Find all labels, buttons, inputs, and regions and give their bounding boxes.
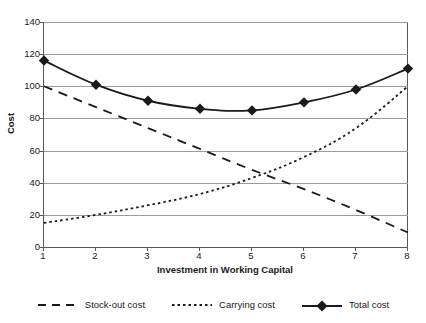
cost-vs-working-capital-chart: Cost 020406080100120140 12345678 Investm… xyxy=(0,0,426,323)
dotted-line-swatch xyxy=(171,300,213,310)
data-point-marker xyxy=(299,97,309,107)
x-axis-tick-label: 1 xyxy=(28,250,58,262)
series-lines xyxy=(44,22,408,247)
x-axis-tick-label: 4 xyxy=(184,250,214,262)
series-line xyxy=(44,86,408,223)
x-axis-tick-label: 5 xyxy=(236,250,266,262)
data-point-marker xyxy=(143,96,153,106)
dashed-line-swatch xyxy=(37,300,79,310)
legend-item-label: Total cost xyxy=(349,300,389,310)
solid-line-diamond-swatch xyxy=(301,300,343,310)
legend-item-label: Stock-out cost xyxy=(85,300,145,310)
legend-item-label: Carrying cost xyxy=(219,300,275,310)
legend-item[interactable]: Total cost xyxy=(301,300,389,310)
data-point-marker xyxy=(91,79,101,89)
x-axis-tick-label: 8 xyxy=(392,250,422,262)
data-point-marker xyxy=(247,105,257,115)
series-line xyxy=(44,86,408,232)
x-axis-tick-label: 3 xyxy=(132,250,162,262)
data-point-marker xyxy=(195,104,205,114)
chart-legend: Stock-out costCarrying costTotal cost xyxy=(0,295,426,315)
x-axis-tick-label: 2 xyxy=(80,250,110,262)
plot-area xyxy=(43,22,408,248)
data-point-marker xyxy=(403,63,413,73)
legend-item[interactable]: Carrying cost xyxy=(171,300,275,310)
x-axis-tick-label: 7 xyxy=(340,250,370,262)
data-point-marker xyxy=(351,84,361,94)
y-axis-tick-marks xyxy=(0,0,43,323)
legend-item[interactable]: Stock-out cost xyxy=(37,300,145,310)
x-axis-tick-label: 6 xyxy=(288,250,318,262)
x-axis-title: Investment in Working Capital xyxy=(43,264,407,275)
